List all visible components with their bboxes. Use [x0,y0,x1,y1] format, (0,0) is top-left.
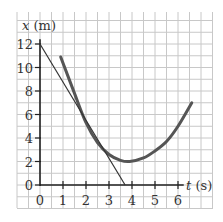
x-tick-label: 6 [174,193,182,208]
x-tick-label: 0 [36,193,44,208]
y-tick-label: 4 [25,131,33,146]
x-axis-label: t (s) [186,178,212,193]
labels: 0123456024681012x (m)t (s) [16,18,212,208]
x-tick-label: 1 [59,193,67,208]
x-tick-label: 5 [151,193,159,208]
position-curve [61,57,192,162]
y-axis-label: x (m) [22,18,56,33]
x-tick-label: 2 [82,193,90,208]
x-tick-label: 4 [128,193,136,208]
y-tick-label: 6 [25,108,33,123]
position-time-chart: 0123456024681012x (m)t (s) [0,0,223,222]
y-tick-label: 8 [25,84,33,99]
y-tick-label: 0 [25,178,33,193]
x-tick-label: 3 [105,193,113,208]
grid [17,12,213,209]
y-tick-label: 12 [16,37,33,52]
y-tick-label: 10 [16,61,33,76]
y-tick-label: 2 [25,155,33,170]
